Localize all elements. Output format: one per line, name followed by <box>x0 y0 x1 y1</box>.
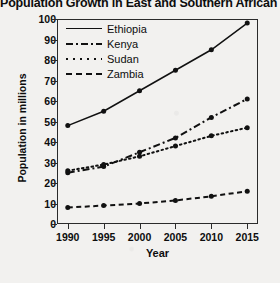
y-tick-mark <box>52 183 57 184</box>
y-tick-label: 90 <box>16 34 56 46</box>
x-tick-label: 2010 <box>200 231 223 243</box>
x-tick-label: 1990 <box>56 231 79 243</box>
y-tick-label: 40 <box>16 136 56 148</box>
x-tick-mark <box>104 224 105 229</box>
legend-item-zambia: Zambia <box>66 67 147 80</box>
y-tick-mark <box>52 204 57 205</box>
y-tick-label: 60 <box>16 95 56 107</box>
y-tick-mark <box>52 163 57 164</box>
legend-label: Ethiopia <box>107 23 147 35</box>
chart-title: Population Growth in East and Southern A… <box>0 0 280 10</box>
y-tick-mark <box>52 101 57 102</box>
y-tick-mark <box>52 60 57 61</box>
legend-item-kenya: Kenya <box>66 37 147 50</box>
legend-item-sudan: Sudan <box>66 52 147 65</box>
x-tick-label: 2005 <box>164 231 187 243</box>
legend-line-swatch-icon <box>66 53 102 64</box>
legend-line-swatch-icon <box>66 68 102 79</box>
y-tick-mark <box>52 81 57 82</box>
y-tick-label: 70 <box>16 75 56 87</box>
y-tick-mark <box>52 224 57 225</box>
legend-line-swatch-icon <box>66 38 102 49</box>
x-axis-title: Year <box>57 247 258 259</box>
y-tick-label: 50 <box>16 116 56 128</box>
y-tick-label: 100 <box>16 13 56 25</box>
y-tick-label: 0 <box>16 218 56 230</box>
legend-label: Sudan <box>107 53 139 65</box>
y-tick-label: 30 <box>16 157 56 169</box>
x-tick-mark <box>211 224 212 229</box>
x-tick-mark <box>68 224 69 229</box>
x-tick-mark <box>140 224 141 229</box>
x-tick-label: 1995 <box>92 231 115 243</box>
y-tick-mark <box>52 122 57 123</box>
y-tick-label: 10 <box>16 198 56 210</box>
legend-label: Zambia <box>107 68 144 80</box>
x-tick-mark <box>175 224 176 229</box>
legend-item-ethiopia: Ethiopia <box>66 22 147 35</box>
legend-label: Kenya <box>107 38 138 50</box>
x-tick-mark <box>247 224 248 229</box>
y-tick-mark <box>52 142 57 143</box>
line-chart: Population Growth in East and Southern A… <box>0 0 280 283</box>
legend-line-swatch-icon <box>66 23 102 34</box>
x-tick-label: 2015 <box>236 231 259 243</box>
x-tick-label: 2000 <box>128 231 151 243</box>
y-tick-label: 20 <box>16 177 56 189</box>
y-tick-mark <box>52 40 57 41</box>
chart-legend: EthiopiaKenyaSudanZambia <box>66 22 147 80</box>
y-tick-mark <box>52 19 57 20</box>
y-tick-label: 80 <box>16 54 56 66</box>
